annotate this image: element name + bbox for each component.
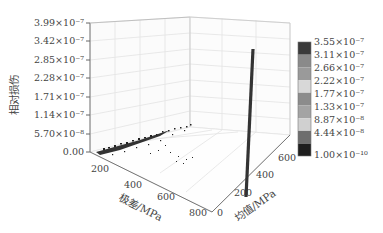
colorbar-label-8: 1.00×10⁻¹⁰ [314,149,368,160]
3d-scatter-chart: 3.99×10⁻⁷ 3.42×10⁻⁷ 2.85×10⁻⁷ 2.28×10⁻⁷ … [0,0,383,233]
colorbar-label-5: 1.33×10⁻⁷ [314,101,364,112]
y-tick-3: 600 [278,152,296,163]
y-tick-1: 200 [234,187,252,198]
x-tick-2: 600 [157,191,175,202]
colorbar-label-1: 3.11×10⁻⁷ [314,49,364,60]
y-tick-0: 0 [217,207,223,218]
colorbar-label-4: 1.77×10⁻⁷ [314,88,364,99]
z-tick-0: 0.00 [63,146,84,157]
colorbar-label-7: 4.44×10⁻⁸ [314,127,364,138]
z-tick-7: 3.99×10⁻⁷ [34,17,84,28]
z-axis-label: 相对损伤 [8,75,20,115]
colorbar-label-0: 3.55×10⁻⁷ [314,36,364,47]
z-tick-3: 1.71×10⁻⁷ [34,91,84,102]
z-axis-ticks: 3.99×10⁻⁷ 3.42×10⁻⁷ 2.85×10⁻⁷ 2.28×10⁻⁷ … [34,17,90,157]
colorbar-label-2: 2.66×10⁻⁷ [314,62,364,73]
colorbar-label-3: 2.22×10⁻⁷ [314,75,364,86]
z-tick-2: 1.14×10⁻⁷ [34,109,84,120]
y-tick-2: 400 [256,169,274,180]
z-tick-4: 2.28×10⁻⁷ [34,72,84,83]
z-tick-6: 3.42×10⁻⁷ [34,35,84,46]
colorbar-label-6: 8.87×10⁻⁸ [314,114,364,125]
z-tick-1: 5.70×10⁻⁸ [34,128,84,139]
x-tick-0: 200 [91,163,109,174]
colorbar: 3.55×10⁻⁷ 3.11×10⁻⁷ 2.66×10⁻⁷ 2.22×10⁻⁷ … [298,36,368,160]
z-tick-5: 2.85×10⁻⁷ [34,54,84,65]
x-tick-3: 800 [189,207,207,218]
x-tick-1: 400 [124,179,142,190]
